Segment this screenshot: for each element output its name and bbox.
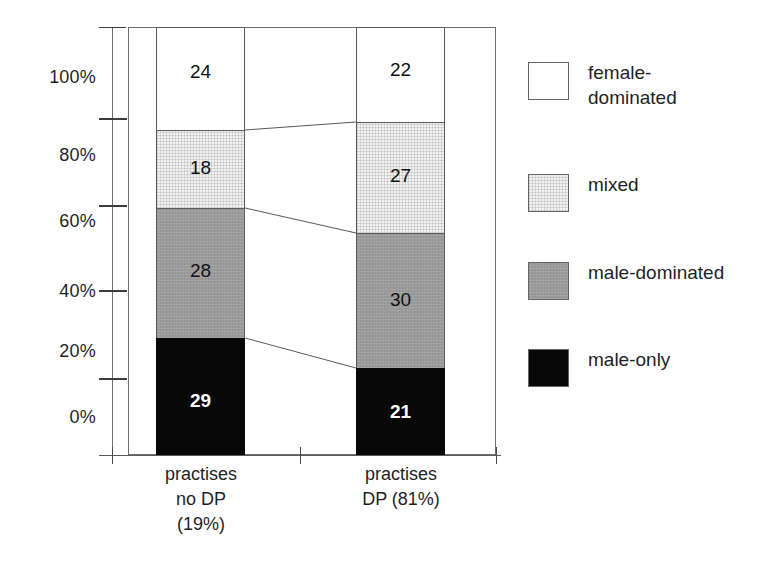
x-category-line: practises [311, 462, 491, 487]
y-tick-60 [99, 205, 127, 207]
x-category-label-no-dp: practises no DP (19%) [111, 462, 291, 537]
segment-male-only[interactable]: 21 [356, 368, 445, 456]
segment-value: 24 [157, 62, 244, 81]
y-axis-label-80: 80% [4, 146, 96, 164]
segment-value: 29 [157, 391, 244, 410]
y-axis-label-60: 60% [4, 212, 96, 230]
legend-item-female-dominated[interactable]: female- dominated [528, 60, 677, 110]
x-category-line: (19%) [111, 512, 291, 537]
segment-value: 21 [357, 402, 444, 421]
x-category-line: practises [111, 462, 291, 487]
legend-swatch-mixed-icon [528, 174, 569, 212]
y-tick-80-100 [99, 118, 127, 120]
legend-label: female- dominated [588, 60, 677, 110]
y-axis-label-40: 40% [4, 282, 96, 300]
segment-male-dominated[interactable]: 28 [156, 208, 245, 339]
y-axis-label-100: 100% [4, 68, 96, 86]
x-category-line: DP (81%) [311, 487, 491, 512]
legend-item-male-only[interactable]: male-only [528, 347, 670, 387]
y-tick-40 [99, 290, 127, 292]
legend-item-mixed[interactable]: mixed [528, 172, 639, 212]
y-axis-label-20: 20% [4, 342, 96, 360]
stacked-bar-chart: 100% 80% 60% 40% 20% 0% 24 18 28 29 [0, 0, 772, 562]
segment-female-dominated[interactable]: 22 [356, 27, 445, 123]
y-axis-line [112, 27, 113, 456]
segment-value: 27 [357, 166, 444, 185]
segment-female-dominated[interactable]: 24 [156, 27, 245, 131]
segment-value: 28 [157, 261, 244, 280]
legend-label: male-dominated [588, 260, 724, 285]
legend-swatch-female-dominated-icon [528, 62, 569, 100]
segment-value: 30 [357, 290, 444, 309]
legend-swatch-male-only-icon [528, 349, 569, 387]
segment-value: 18 [157, 158, 244, 177]
x-tick-right [496, 447, 497, 464]
legend-label: mixed [588, 172, 639, 197]
segment-mixed[interactable]: 18 [156, 130, 245, 209]
legend-label: male-only [588, 347, 670, 372]
segment-male-dominated[interactable]: 30 [356, 233, 445, 369]
segment-value: 22 [357, 60, 444, 79]
y-axis-top-cap [99, 27, 126, 28]
segment-male-only[interactable]: 29 [156, 338, 245, 456]
legend-swatch-male-dominated-icon [528, 262, 569, 300]
x-category-line: no DP [111, 487, 291, 512]
y-axis-label-0: 0% [4, 408, 96, 426]
x-category-label-dp: practises DP (81%) [311, 462, 491, 512]
segment-mixed[interactable]: 27 [356, 122, 445, 234]
y-tick-20-0 [99, 378, 127, 380]
legend-item-male-dominated[interactable]: male-dominated [528, 260, 724, 300]
x-tick-middle [300, 447, 301, 464]
